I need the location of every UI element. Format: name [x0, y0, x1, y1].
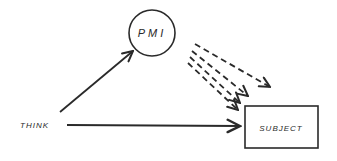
dashed-arrow-4 [188, 63, 238, 110]
dashed-arrow-3 [190, 57, 240, 103]
dashed-arrow-2 [192, 51, 248, 96]
subject-node: SUBJECT [245, 106, 318, 148]
pmi-node: PMI [129, 10, 175, 56]
think-label: THINK [20, 121, 49, 130]
diagram-canvas: PMI THINK SUBJECT [0, 0, 337, 161]
dashed-arrows-pmi-to-subject [188, 44, 270, 110]
subject-label: SUBJECT [259, 124, 303, 133]
pmi-label: PMI [138, 27, 167, 39]
arrow-think-to-subject [67, 125, 240, 126]
arrow-think-to-pmi [60, 51, 133, 112]
